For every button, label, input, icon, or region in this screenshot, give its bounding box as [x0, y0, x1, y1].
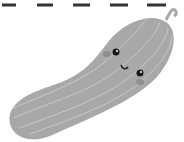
cucumber-illustration: [0, 0, 184, 142]
cucumber-body: [9, 10, 176, 140]
